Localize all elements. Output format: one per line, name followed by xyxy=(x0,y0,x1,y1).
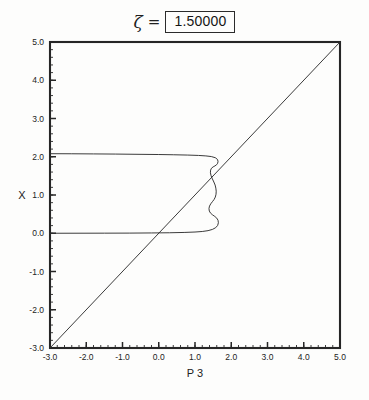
x-tick-label: 4.0 xyxy=(298,352,310,362)
y-axis-label: X xyxy=(18,189,26,201)
x-tick-label: 0.0 xyxy=(153,352,165,362)
x-tick-label: 2.0 xyxy=(225,352,237,362)
y-tick-label: -3.0 xyxy=(29,343,44,353)
plot-area: -3.0-2.0-1.00.01.02.03.04.05.0-3.0-2.0-1… xyxy=(0,0,369,400)
x-tick-label: -3.0 xyxy=(43,352,58,362)
y-tick-label: 0.0 xyxy=(32,228,44,238)
y-tick-label: 5.0 xyxy=(32,37,44,47)
y-tick-label: 2.0 xyxy=(32,152,44,162)
x-tick-label: 3.0 xyxy=(262,352,274,362)
y-tick-label: 4.0 xyxy=(32,75,44,85)
figure-root: ζ = 1.50000 -3.0-2.0-1.00.01.02.03.04.05… xyxy=(0,0,369,400)
x-tick-label: 5.0 xyxy=(334,352,346,362)
x-tick-label: 1.0 xyxy=(189,352,201,362)
plot-svg: -3.0-2.0-1.00.01.02.03.04.05.0-3.0-2.0-1… xyxy=(0,0,369,400)
x-tick-label: -1.0 xyxy=(115,352,130,362)
y-tick-label: -2.0 xyxy=(29,305,44,315)
y-tick-label: 1.0 xyxy=(32,190,44,200)
x-tick-label: -2.0 xyxy=(79,352,94,362)
y-tick-label: 3.0 xyxy=(32,114,44,124)
series-response-curve xyxy=(50,154,218,234)
series-diagonal xyxy=(50,42,340,348)
x-axis-label: P 3 xyxy=(187,367,203,379)
y-tick-label: -1.0 xyxy=(29,267,44,277)
series-layer xyxy=(50,42,340,348)
